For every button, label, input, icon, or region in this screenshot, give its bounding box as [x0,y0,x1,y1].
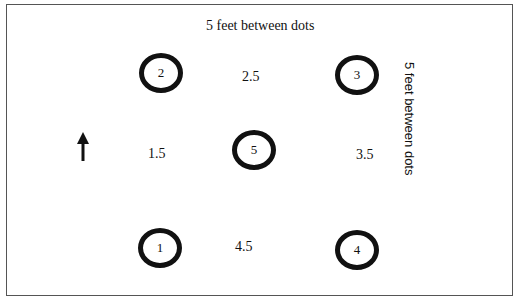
dot-5-label: 5 [251,142,258,158]
arrow-up-icon [76,132,90,162]
top-distance-label: 5 feet between dots [206,18,314,34]
dot-2: 2 [139,53,183,93]
dot-3: 3 [335,55,379,95]
dot-4-label: 4 [354,242,361,258]
midpoint-4-5: 4.5 [235,239,253,255]
dot-1: 1 [138,228,182,268]
dot-5: 5 [232,130,276,170]
side-distance-label: 5 feet between dots [402,62,417,175]
dot-4: 4 [335,230,379,270]
dot-2-label: 2 [158,65,165,81]
midpoint-2-5: 2.5 [242,69,260,85]
midpoint-3-5: 3.5 [356,147,374,163]
dot-3-label: 3 [354,67,361,83]
midpoint-1-5: 1.5 [148,146,166,162]
dot-1-label: 1 [157,240,164,256]
